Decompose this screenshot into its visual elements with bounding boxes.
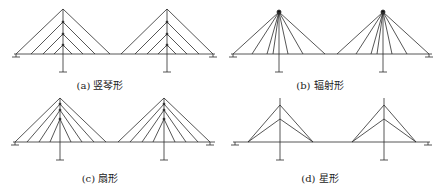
panel-b-radial bbox=[229, 10, 433, 72]
panel-c-fan bbox=[11, 98, 215, 160]
cable-stayed-bridge-diagrams bbox=[0, 0, 437, 187]
panel-d-star bbox=[231, 98, 432, 160]
caption-a: (a) 竖琴形 bbox=[77, 77, 124, 92]
caption-b: (b) 辐射形 bbox=[296, 77, 343, 92]
caption-d: (d) 星形 bbox=[301, 170, 338, 185]
caption-c: (c) 扇形 bbox=[82, 170, 119, 185]
panel-a-harp bbox=[12, 9, 217, 72]
